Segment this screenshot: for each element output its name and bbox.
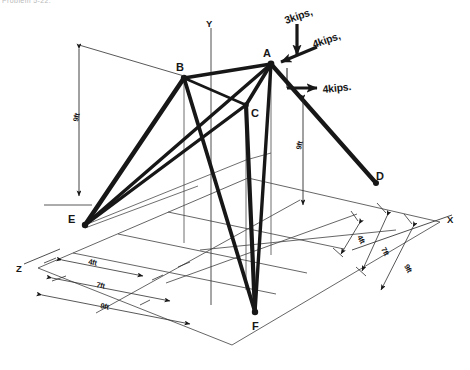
dim-label-z-4ft: 4ft bbox=[88, 257, 99, 268]
load-label-4kips-diagonal: 4kips, bbox=[311, 29, 342, 50]
node-label-C: C bbox=[251, 107, 259, 119]
node-label-B: B bbox=[176, 61, 184, 73]
z-witness-2 bbox=[140, 300, 150, 305]
member-A-F bbox=[255, 64, 271, 312]
node-label-F: F bbox=[252, 320, 259, 332]
truss-diagram: Y X Z B A C D E F bbox=[0, 0, 470, 370]
projection-lines bbox=[85, 66, 271, 290]
load-label-3kips: 3kips, bbox=[283, 5, 314, 26]
grid-line-z-1 bbox=[96, 200, 300, 313]
grid-line-x-3 bbox=[168, 212, 344, 249]
diagram-canvas: Y X Z B A C D E F bbox=[0, 0, 470, 370]
dim-line-x-9ft bbox=[381, 227, 413, 290]
z-axis-line bbox=[24, 249, 60, 264]
z-dimension-chain bbox=[42, 258, 190, 324]
z-witness-4 bbox=[178, 262, 190, 267]
joint-F bbox=[252, 309, 258, 315]
node-label-E: E bbox=[68, 213, 76, 225]
dim-label-x-9ft: 9ft bbox=[402, 263, 414, 275]
dim-ext-height-left-top bbox=[79, 45, 184, 76]
x-axis-label: X bbox=[447, 214, 454, 225]
load-arrow-4kips-diagonal bbox=[281, 47, 317, 62]
dim-line-z-4ft bbox=[62, 260, 143, 276]
dim-label-x-7ft: 7ft bbox=[379, 246, 391, 258]
node-label-A: A bbox=[263, 47, 271, 59]
dim-label-z-7ft: 7ft bbox=[96, 280, 107, 291]
z-axis-label: Z bbox=[16, 263, 22, 274]
truss-members bbox=[85, 64, 376, 312]
joint-A bbox=[268, 61, 275, 68]
z-witness-0 bbox=[44, 258, 56, 263]
dim-label-z-9ft: 9ft bbox=[100, 301, 111, 312]
grid-line-x-2 bbox=[118, 234, 307, 273]
joint-C bbox=[243, 102, 249, 108]
x-dimension-chain bbox=[333, 203, 413, 290]
dim-line-x-7ft bbox=[362, 216, 387, 271]
node-label-D: D bbox=[376, 170, 384, 182]
dim-label-height-left: 9ft bbox=[71, 112, 82, 123]
y-axis-label: Y bbox=[206, 18, 213, 29]
dim-label-x-4ft: 4ft bbox=[355, 234, 367, 246]
joint-E bbox=[82, 222, 88, 228]
load-label-4kips-horizontal: 4kips. bbox=[322, 80, 352, 95]
